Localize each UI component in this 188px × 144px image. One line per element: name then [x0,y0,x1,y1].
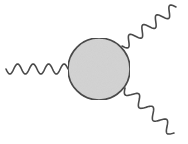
feynman-diagram [0,0,188,144]
wavy-line-outgoing-upper-right [122,5,176,48]
wavy-line-outgoing-lower-right [124,88,174,134]
vertex-blob [68,38,130,100]
wavy-line-incoming-left [6,64,68,74]
